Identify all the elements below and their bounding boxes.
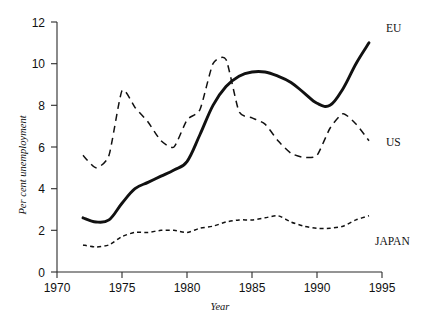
- y-tick-label-10: 10: [32, 57, 46, 71]
- x-tick-label-1970: 1970: [44, 281, 71, 295]
- y-tick-label-2: 2: [38, 224, 45, 238]
- series-line-japan: [83, 216, 369, 247]
- y-tick-label-12: 12: [32, 16, 46, 30]
- series-label-us: US: [386, 136, 401, 148]
- y-tick-label-0: 0: [38, 266, 45, 280]
- y-axis-title: Per cent unemployment: [17, 114, 28, 215]
- x-tick-labels: 1970 1975 1980 1985 1990 1995: [44, 281, 396, 295]
- chart-canvas: 12 10 8 6 4 2 0 1970 1975 1980 1985 1990…: [0, 0, 431, 324]
- series-line-us: [83, 57, 369, 167]
- y-tick-label-6: 6: [38, 141, 45, 155]
- x-axis-title: Year: [211, 301, 231, 312]
- x-tick-label-1985: 1985: [239, 281, 266, 295]
- series-line-eu: [83, 43, 369, 223]
- y-tick-labels: 12 10 8 6 4 2 0: [32, 16, 46, 280]
- x-tick-marks: [57, 272, 382, 278]
- y-tick-label-4: 4: [38, 182, 45, 196]
- y-tick-label-8: 8: [38, 99, 45, 113]
- y-tick-marks: [51, 22, 57, 272]
- x-tick-label-1995: 1995: [369, 281, 396, 295]
- unemployment-line-chart: 12 10 8 6 4 2 0 1970 1975 1980 1985 1990…: [0, 0, 431, 324]
- series-label-eu: EU: [386, 22, 402, 34]
- x-tick-label-1990: 1990: [304, 281, 331, 295]
- x-tick-label-1980: 1980: [174, 281, 201, 295]
- x-tick-label-1975: 1975: [109, 281, 136, 295]
- series-label-japan: JAPAN: [375, 235, 410, 247]
